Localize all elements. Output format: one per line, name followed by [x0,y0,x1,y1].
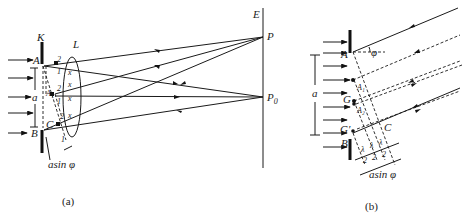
label-b-b: B [341,137,348,149]
label-a1-b: A₁ [356,83,365,92]
ray-num: 1 [61,135,65,144]
label-e: E [252,8,260,20]
svg-text:2: 2 [363,156,367,165]
ray-num: 1 [57,67,61,76]
caption-a: (a) [62,195,75,208]
label-k: K [36,31,45,43]
ray-num: 2 [57,55,61,64]
lens-marks: x x x x [67,68,72,120]
label-path-diff-b: asin φ [369,168,396,180]
svg-text:2: 2 [372,153,376,162]
rays [44,37,263,130]
figure-a: x x x x K L [8,8,278,208]
label-a1: A₁ [45,89,54,98]
figure-b: A φ a A₁ G A₂ G′ B C λ λ λ 2 2 2 asin φ … [310,8,462,213]
label-path-diff: asin φ [48,158,75,170]
label-width-a: a [32,91,38,103]
label-p: P [266,30,274,42]
svg-text:x: x [67,94,72,103]
svg-text:λ: λ [369,141,374,150]
half-wavelength-labels: λ λ λ 2 2 2 [360,138,386,165]
incident-arrows [8,60,33,133]
ray-num: 1 [57,97,61,106]
label-b: B [31,127,38,139]
ray-num: 2 [57,84,61,93]
caption-b: (b) [365,200,378,213]
label-phi: φ [371,46,377,58]
label-c-b: C [384,121,392,133]
ray-num: 2 [60,112,64,121]
label-p0: P0 [266,91,278,106]
label-a-top: A [32,54,40,66]
svg-text:λ: λ [360,145,365,154]
label-l: L [72,38,79,50]
svg-text:λ: λ [378,138,383,147]
label-g: G [343,93,351,105]
diffraction-diagram: x x x x K L [0,0,471,217]
label-width-a-b: a [312,87,318,99]
label-g-prime: G′ [340,123,351,135]
label-c: C [46,118,54,130]
svg-text:x: x [67,80,72,89]
label-a2-b: A₂ [356,106,365,115]
label-a-top-b: A [340,48,348,60]
svg-text:2: 2 [382,150,386,159]
